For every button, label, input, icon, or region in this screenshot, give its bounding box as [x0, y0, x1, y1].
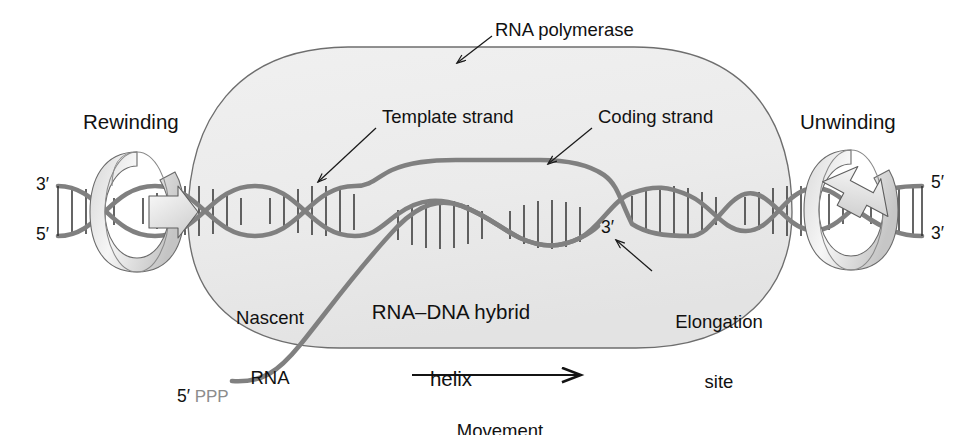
label-nascent-rna: Nascent RNA	[218, 268, 322, 428]
end-label-left-top: 3′	[36, 175, 49, 194]
label-elongation-line1: Elongation	[656, 312, 782, 332]
label-elongation-site: Elongation site	[656, 272, 782, 432]
label-five-prime-ppp: 5′ PPP	[158, 369, 229, 425]
label-template-strand: Template strand	[382, 107, 514, 127]
end-label-rna-three-prime: 3′	[601, 218, 614, 237]
label-five-prime-number: 5′	[177, 386, 190, 406]
label-nascent-rna-line2: RNA	[218, 368, 322, 388]
dna-base-pair-rungs-left	[72, 186, 354, 236]
label-hybrid-line1: RNA–DNA hybrid	[336, 301, 566, 323]
label-unwinding: Unwinding	[800, 111, 896, 133]
label-rna-polymerase: RNA polymerase	[495, 20, 634, 40]
label-rewinding: Rewinding	[83, 111, 179, 133]
label-elongation-line2: site	[656, 372, 782, 392]
unwinding-rotation-arrow	[804, 150, 902, 270]
diagram-canvas: RNA polymerase Template strand Coding st…	[0, 0, 957, 435]
label-ppp-text: PPP	[195, 387, 229, 406]
end-label-left-bottom: 5′	[36, 225, 49, 244]
end-label-right-top: 5′	[931, 173, 944, 192]
label-movement-line1: Movement	[400, 421, 600, 435]
label-movement-of-polymerase: Movement of polymerase	[400, 381, 600, 435]
end-label-right-bottom: 3′	[931, 224, 944, 243]
label-nascent-rna-line1: Nascent	[218, 308, 322, 328]
label-coding-strand: Coding strand	[598, 107, 713, 127]
